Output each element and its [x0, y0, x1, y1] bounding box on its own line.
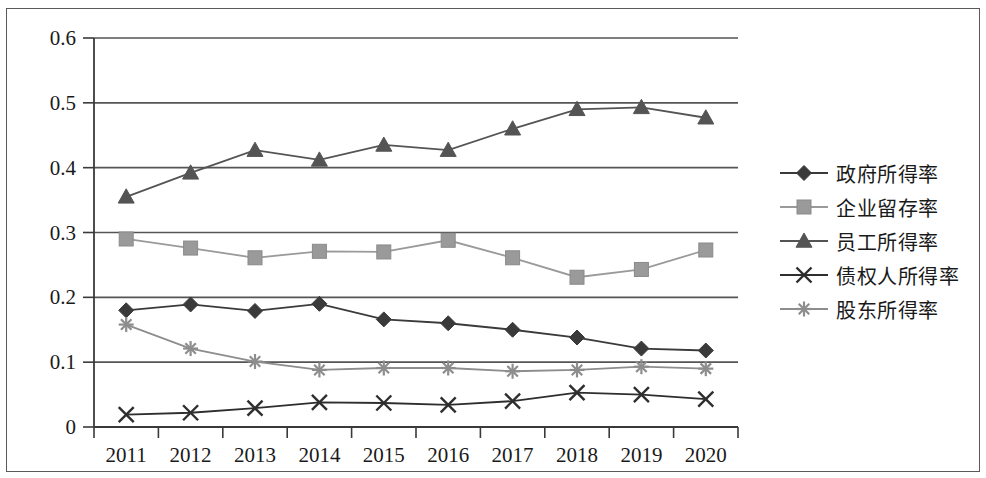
y-axis-tick-label: 0.1 — [50, 350, 76, 374]
x-axis-tick-label: 2013 — [234, 443, 276, 467]
legend-marker-triangle-icon — [778, 231, 830, 251]
legend-marker-square-icon — [778, 197, 830, 217]
data-point-marker-diamond — [797, 166, 812, 181]
data-point-marker-square — [184, 241, 198, 255]
series-4 — [119, 385, 714, 422]
legend-marker-diamond-icon — [778, 163, 830, 183]
y-axis-tick-label: 0.6 — [50, 26, 76, 50]
legend-marker-svg — [778, 197, 830, 217]
data-point-marker-square — [377, 245, 391, 259]
y-axis-tick-label: 0 — [66, 415, 77, 439]
data-point-marker-diamond — [183, 297, 198, 312]
x-axis-tick-label: 2018 — [556, 443, 598, 467]
x-axis-tick-label: 2011 — [106, 443, 147, 467]
y-axis-tick-label: 0.4 — [50, 156, 77, 180]
x-axis-tick-label: 2015 — [363, 443, 405, 467]
series-3 — [118, 99, 714, 203]
data-point-marker-triangle — [118, 189, 134, 203]
x-axis-tick-label: 2020 — [685, 443, 727, 467]
data-point-marker-diamond — [698, 343, 713, 358]
chart-page: 00.10.20.30.40.50.6201120122013201420152… — [0, 0, 986, 478]
legend-item-label: 员工所得率 — [830, 227, 939, 256]
data-point-marker-triangle — [376, 137, 392, 151]
data-point-marker-diamond — [570, 330, 585, 345]
legend-marker-cross-icon — [778, 265, 830, 285]
data-point-marker-square — [634, 262, 648, 276]
x-axis-tick-label: 2014 — [298, 443, 341, 467]
data-point-marker-diamond — [441, 316, 456, 331]
series-5 — [119, 317, 714, 379]
data-point-marker-triangle — [633, 99, 649, 113]
data-point-marker-square — [119, 232, 133, 246]
x-axis-tick-label: 2016 — [427, 443, 469, 467]
data-point-marker-diamond — [634, 341, 649, 356]
legend-marker-svg — [778, 299, 830, 319]
data-point-marker-diamond — [505, 322, 520, 337]
series-2 — [119, 232, 713, 284]
legend-item-label: 债权人所得率 — [830, 261, 959, 290]
data-point-marker-square — [248, 251, 262, 265]
series-line — [126, 393, 706, 415]
y-axis-tick-label: 0.5 — [50, 91, 76, 115]
series-line — [126, 107, 706, 196]
y-axis-tick-label: 0.2 — [50, 285, 76, 309]
data-point-marker-diamond — [248, 303, 263, 318]
data-point-marker-triangle — [247, 142, 263, 156]
x-axis-tick-label: 2012 — [170, 443, 212, 467]
legend-item-label: 股东所得率 — [830, 295, 939, 324]
series-line — [126, 304, 706, 351]
data-point-marker-square — [570, 270, 584, 284]
legend-marker-svg — [778, 231, 830, 251]
series-1 — [119, 296, 714, 358]
series-line — [126, 325, 706, 372]
legend-item[interactable]: 企业留存率 — [778, 190, 978, 224]
legend-item[interactable]: 债权人所得率 — [778, 258, 978, 292]
data-point-marker-square — [699, 243, 713, 257]
data-point-marker-square — [506, 251, 520, 265]
legend-marker-svg — [778, 265, 830, 285]
data-point-marker-square — [797, 200, 811, 214]
legend-marker-asterisk-icon — [778, 299, 830, 319]
chart-legend: 政府所得率企业留存率员工所得率债权人所得率股东所得率 — [778, 156, 978, 326]
data-point-marker-diamond — [376, 312, 391, 327]
series-line — [126, 239, 706, 277]
x-axis-tick-label: 2019 — [620, 443, 662, 467]
data-point-marker-square — [441, 233, 455, 247]
data-point-marker-diamond — [312, 296, 327, 311]
legend-item[interactable]: 政府所得率 — [778, 156, 978, 190]
legend-marker-svg — [778, 163, 830, 183]
data-point-marker-square — [312, 244, 326, 258]
x-axis-tick-label: 2017 — [492, 443, 534, 467]
data-point-marker-diamond — [119, 303, 134, 318]
legend-item[interactable]: 股东所得率 — [778, 292, 978, 326]
legend-item-label: 企业留存率 — [830, 193, 939, 222]
y-axis-tick-label: 0.3 — [50, 221, 76, 245]
legend-item[interactable]: 员工所得率 — [778, 224, 978, 258]
legend-item-label: 政府所得率 — [830, 159, 939, 188]
